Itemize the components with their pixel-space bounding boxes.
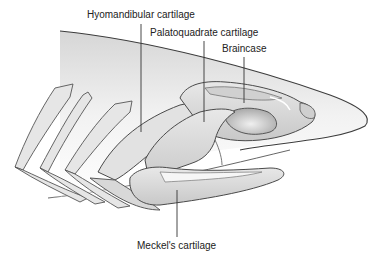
label-palatoquadrate-cartilage: Palatoquadrate cartilage <box>150 27 258 39</box>
meckels-shape <box>130 167 284 205</box>
label-hyomandibular-cartilage: Hyomandibular cartilage <box>87 9 195 21</box>
label-braincase: Braincase <box>222 43 266 55</box>
label-meckels-cartilage: Meckel's cartilage <box>137 240 216 252</box>
diagram-canvas: Hyomandibular cartilage Palatoquadrate c… <box>0 0 377 259</box>
